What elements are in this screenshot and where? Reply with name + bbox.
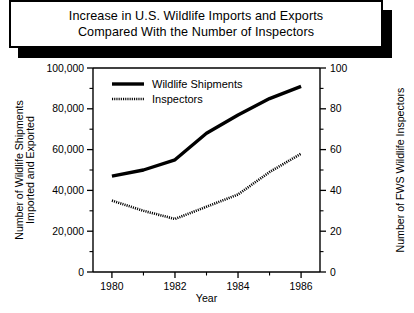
right-axis-tick-label: 60 xyxy=(330,144,342,155)
chart-title-box: Increase in U.S. Wildlife Imports and Ex… xyxy=(9,0,383,48)
left-axis-tick-label: 80,000 xyxy=(52,103,84,114)
series-line-wildlife-shipments xyxy=(112,86,301,176)
y-axis-title-line-2: Imported and Exported xyxy=(24,116,36,224)
left-axis-tick-label: 20,000 xyxy=(52,226,84,237)
x-axis-tick-label: 1984 xyxy=(226,281,249,292)
legend-label-inspectors: Inspectors xyxy=(152,93,203,105)
left-axis-tick-label: 100,000 xyxy=(46,63,84,74)
y2-axis-title: Number of FWS Wildlife Inspectors xyxy=(394,88,406,253)
right-axis-tick-label: 100 xyxy=(330,63,348,74)
x-axis-tick-label: 1982 xyxy=(163,281,186,292)
chart-title-line-1: Increase in U.S. Wildlife Imports and Ex… xyxy=(69,8,323,24)
chart-svg: 020,00040,00060,00080,000100,00002040608… xyxy=(0,56,414,313)
right-axis-tick-label: 20 xyxy=(330,226,342,237)
x-axis-tick-label: 1986 xyxy=(290,281,313,292)
left-axis-tick-label: 0 xyxy=(78,267,84,278)
x-axis-tick-label: 1980 xyxy=(100,281,123,292)
legend-label-wildlife-shipments: Wildlife Shipments xyxy=(152,78,243,90)
series-line-inspectors xyxy=(112,154,301,219)
chart-title-line-2: Compared With the Number of Inspectors xyxy=(78,24,314,40)
left-axis-tick-label: 60,000 xyxy=(52,144,84,155)
chart-figure: 020,00040,00060,00080,000100,00002040608… xyxy=(0,56,414,313)
left-axis-tick-label: 40,000 xyxy=(52,185,84,196)
right-axis-tick-label: 40 xyxy=(330,185,342,196)
right-axis-tick-label: 0 xyxy=(330,267,336,278)
right-axis-tick-label: 80 xyxy=(330,103,342,114)
x-axis-title: Year xyxy=(196,292,218,304)
chart-page: Increase in U.S. Wildlife Imports and Ex… xyxy=(0,0,414,313)
